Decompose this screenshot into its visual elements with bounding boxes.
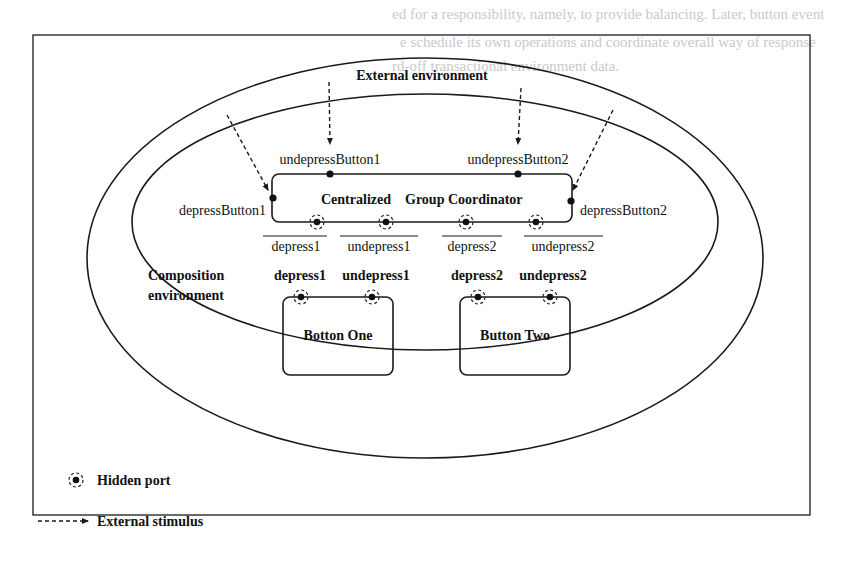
button-two-component: Button Two bbox=[460, 290, 570, 375]
label-button-two-undepress2: undepress2 bbox=[519, 268, 586, 283]
button-one-title: Botton One bbox=[304, 328, 373, 343]
label-button-one-depress1: depress1 bbox=[274, 268, 326, 283]
label-undepress1-bar: undepress1 bbox=[348, 239, 411, 254]
label-undepress2-bar: undepress2 bbox=[532, 239, 595, 254]
button-one-component: Botton One bbox=[283, 290, 393, 375]
stimulus-arrow-depress-button1 bbox=[227, 115, 268, 190]
legend-external-stimulus-label: External stimulus bbox=[97, 514, 204, 529]
port-undepress-button1 bbox=[326, 170, 333, 177]
button-two-title: Button Two bbox=[480, 328, 550, 343]
label-undepress-button2: undepressButton2 bbox=[467, 152, 568, 167]
stimulus-arrow-undepress-button1 bbox=[329, 82, 330, 144]
port-depress-button2 bbox=[567, 197, 574, 204]
port-depress-button1 bbox=[269, 194, 276, 201]
legend-hidden-port-label: Hidden port bbox=[97, 473, 171, 488]
composition-diagram: External environment Centralized Group C… bbox=[0, 0, 843, 572]
coordinator-title-word2: Group Coordinator bbox=[405, 192, 523, 207]
legend: Hidden port External stimulus bbox=[38, 473, 204, 529]
label-button-two-depress2: depress2 bbox=[451, 268, 503, 283]
label-undepress-button1: undepressButton1 bbox=[279, 152, 380, 167]
port-undepress-button2 bbox=[514, 170, 521, 177]
stimulus-arrow-undepress-button2 bbox=[518, 88, 521, 144]
label-depress-button1: depressButton1 bbox=[179, 203, 266, 218]
label-depress2-bar: depress2 bbox=[448, 239, 497, 254]
coordinator-title-word1: Centralized bbox=[321, 192, 391, 207]
label-button-one-undepress1: undepress1 bbox=[342, 268, 409, 283]
label-depress-button2: depressButton2 bbox=[580, 203, 667, 218]
hidden-port-legend-icon bbox=[69, 473, 83, 487]
centralized-group-coordinator: Centralized Group Coordinator undepressB… bbox=[179, 152, 667, 254]
external-environment-label: External environment bbox=[356, 68, 488, 83]
composition-environment-label-line1: Composition bbox=[148, 268, 224, 283]
label-depress1-bar: depress1 bbox=[272, 239, 321, 254]
external-environment-ellipse bbox=[87, 58, 763, 458]
composition-environment-label-line2: environment bbox=[148, 288, 224, 303]
